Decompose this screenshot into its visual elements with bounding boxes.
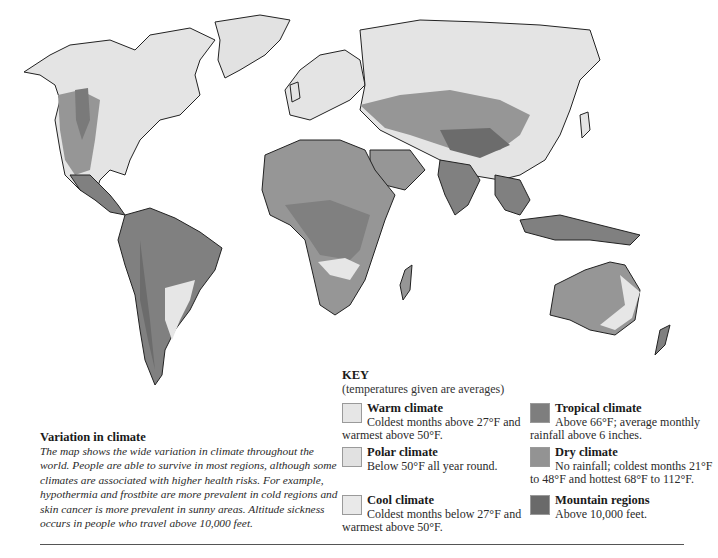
key-title: KEY — [342, 368, 712, 382]
japan — [580, 112, 590, 138]
british-isles — [290, 82, 300, 102]
polar-swatch — [342, 447, 362, 467]
key-item-cool: Cool climate Coldest months below 27°F a… — [342, 494, 532, 535]
key-item-warm: Warm climate Coldest months above 27°F a… — [342, 402, 532, 443]
indonesia — [520, 215, 640, 245]
key-item-name: Cool climate — [342, 494, 532, 508]
bottom-divider — [40, 544, 684, 545]
key-item-desc: Below 50°F all year round. — [367, 459, 497, 473]
key-item-name: Dry climate — [530, 446, 718, 460]
key-item-desc: Coldest months below 27°F and warmest ab… — [342, 507, 521, 535]
key-item-desc: Above 10,000 feet. — [555, 507, 647, 521]
dry-swatch — [530, 447, 550, 467]
key-item-desc: No rainfall; coldest months 21°F to 48°F… — [530, 459, 712, 487]
key-item-mountain: Mountain regions Above 10,000 feet. — [530, 494, 718, 521]
key-subtitle: (temperatures given are averages) — [342, 382, 712, 396]
warm-swatch — [342, 403, 362, 423]
new-zealand — [655, 325, 670, 355]
map-caption: Variation in climate The map shows the w… — [40, 430, 340, 530]
mountain-swatch — [530, 495, 550, 515]
key-item-desc: Above 66°F; average monthly rainfall abo… — [530, 415, 700, 443]
cool-swatch — [342, 495, 362, 515]
key-item-dry: Dry climate No rainfall; coldest months … — [530, 446, 718, 487]
tropical-swatch — [530, 403, 550, 423]
key-item-tropical: Tropical climate Above 66°F; average mon… — [530, 402, 718, 443]
world-climate-map — [0, 0, 718, 400]
north-america — [24, 28, 215, 195]
greenland — [215, 15, 290, 78]
key-item-name: Polar climate — [342, 446, 532, 460]
key-item-name: Tropical climate — [530, 402, 718, 416]
caption-body: The map shows the wide variation in clim… — [40, 444, 340, 530]
map-key: KEY (temperatures given are averages) Wa… — [342, 368, 712, 542]
madagascar — [400, 265, 412, 300]
key-item-polar: Polar climate Below 50°F all year round. — [342, 446, 532, 473]
caption-title: Variation in climate — [40, 430, 340, 444]
key-item-name: Warm climate — [342, 402, 532, 416]
key-item-desc: Coldest months above 27°F and warmest ab… — [342, 415, 520, 443]
southeast-asia — [495, 175, 530, 215]
key-grid: Warm climate Coldest months above 27°F a… — [342, 402, 712, 542]
key-item-name: Mountain regions — [530, 494, 718, 508]
